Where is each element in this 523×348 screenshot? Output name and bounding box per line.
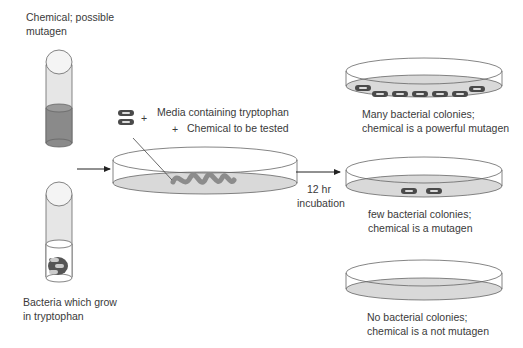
result-none-line1: No bacterial colonies; [367,311,467,324]
result-dish-many [346,58,502,97]
result-none-line2: chemical is a not mutagen [367,325,489,338]
chemical-tube [46,50,72,147]
result-many-line2: chemical is a powerful mutagen [362,122,509,135]
incubation-label: incubation [297,197,345,210]
bacteria-label-1: Bacteria which grow [23,296,117,309]
result-few-line1: few bacterial colonies; [368,208,471,221]
center-petri-dish [113,138,297,194]
result-few-line2: chemical is a mutagen [368,222,472,235]
bacteria-cluster [48,257,68,275]
chemical-label-2: mutagen [26,25,67,38]
ingredient-chemical: Chemical to be tested [187,122,289,135]
incubation-time: 12 hr [307,183,331,196]
plus-sign-1: + [141,112,147,125]
bacterium-icon [118,110,134,116]
ingredient-media: Media containing tryptophan [157,106,289,119]
result-many-line1: Many bacterial colonies; [362,108,475,121]
bacterium-icon [118,119,134,125]
plus-sign-2: + [172,123,178,136]
result-dish-few [346,157,502,197]
bacteria-tube [46,182,72,282]
chemical-label-1: Chemical; possible [26,11,114,24]
result-dish-none [346,260,502,300]
bacteria-label-2: in tryptophan [23,310,84,323]
